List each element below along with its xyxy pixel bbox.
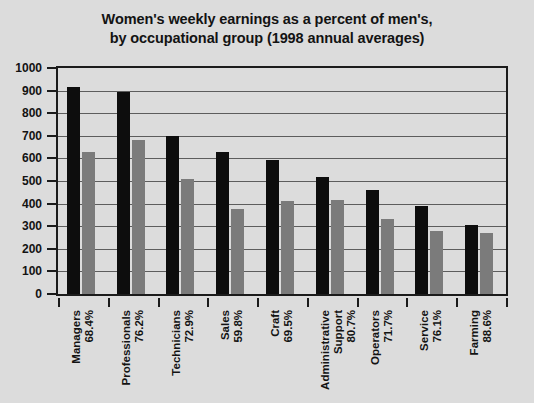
chart-title-line-1: Women's weekly earnings as a percent of … [0, 10, 534, 29]
x-category-percent: 59.8% [232, 310, 250, 403]
x-category-percent: 69.5% [282, 310, 300, 403]
y-tick-mark [47, 248, 56, 250]
chart-title-line-2: by occupational group (1998 annual avera… [0, 29, 534, 48]
y-tick-label: 600 [22, 151, 42, 165]
y-tick-label: 300 [22, 219, 42, 233]
y-tick-label: 1000 [15, 61, 42, 75]
bar [381, 219, 394, 294]
x-tick-mark [207, 298, 209, 307]
y-tick-mark [47, 225, 56, 227]
x-tick-mark [257, 298, 259, 307]
x-tick-mark [406, 298, 408, 307]
bar [231, 209, 244, 294]
y-tick-mark [47, 90, 56, 92]
y-tick-mark [47, 135, 56, 137]
y-tick-label: 0 [35, 287, 42, 301]
bar [430, 231, 443, 294]
y-tick-mark [47, 67, 56, 69]
y-tick-label: 400 [22, 197, 42, 211]
bar [266, 160, 279, 294]
x-category-percent: 71.7% [382, 310, 400, 403]
bar [415, 206, 428, 294]
x-tick-mark [158, 298, 160, 307]
x-category-percent: 76.1% [431, 310, 449, 403]
bar [480, 233, 493, 294]
bar [67, 87, 80, 294]
x-category-percent: 80.7% [345, 310, 363, 403]
y-tick-label: 900 [22, 84, 42, 98]
bar [281, 201, 294, 294]
y-tick-mark [47, 112, 56, 114]
x-tick-mark [108, 298, 110, 307]
x-tick-mark [58, 298, 60, 307]
bar [117, 92, 130, 294]
bars-layer [58, 68, 506, 294]
y-tick-mark [47, 180, 56, 182]
y-tick-mark [47, 270, 56, 272]
bar [132, 140, 145, 294]
bar [465, 225, 478, 294]
x-category-percent: 72.9% [183, 310, 201, 403]
x-category-percent: 68.4% [83, 310, 101, 403]
x-tick-mark [357, 298, 359, 307]
y-tick-label: 200 [22, 242, 42, 256]
x-category-percent: 88.6% [481, 310, 499, 403]
y-tick-mark [47, 157, 56, 159]
bar [166, 136, 179, 294]
x-tick-mark [307, 298, 309, 307]
chart-figure: Women's weekly earnings as a percent of … [0, 0, 534, 403]
y-tick-mark [47, 293, 56, 295]
bar [366, 190, 379, 294]
y-tick-mark [47, 203, 56, 205]
bar [181, 179, 194, 294]
y-axis: 10009008007006005004003002001000 [0, 0, 56, 403]
y-tick-label: 100 [22, 264, 42, 278]
y-tick-label: 700 [22, 129, 42, 143]
x-axis: Managers68.4%Professionals76.2%Technicia… [56, 298, 508, 403]
x-tick-mark [456, 298, 458, 307]
x-tick-mark [506, 298, 508, 307]
y-tick-label: 800 [22, 106, 42, 120]
plot-area [56, 66, 508, 296]
chart-title: Women's weekly earnings as a percent of … [0, 10, 534, 48]
bar [316, 177, 329, 294]
bar [331, 200, 344, 294]
bar [216, 152, 229, 294]
x-category-percent: 76.2% [133, 310, 151, 403]
y-tick-label: 500 [22, 174, 42, 188]
bar [82, 152, 95, 294]
